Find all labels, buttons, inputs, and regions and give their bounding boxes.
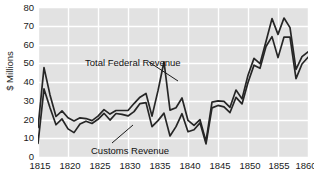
x-tick-1825: 1825 (89, 161, 110, 171)
x-tick-1850: 1850 (239, 161, 260, 171)
x-tick-1860: 1860 (295, 161, 314, 171)
y-tick-70: 70 (0, 21, 34, 31)
x-tick-1845: 1845 (209, 161, 230, 171)
series-lines (38, 7, 308, 157)
x-tick-1840: 1840 (179, 161, 200, 171)
series-customs-revenue (38, 37, 308, 144)
x-tick-1830: 1830 (119, 161, 140, 171)
y-tick-20: 20 (0, 115, 34, 125)
annotation-customs-revenue: Customs Revenue (91, 146, 169, 156)
annotation-total-federal-revenue: Total Federal Revenue (85, 58, 181, 68)
plot-area: Total Federal Revenue Customs Revenue (38, 7, 308, 157)
x-tick-1820: 1820 (59, 161, 80, 171)
y-axis-title: $ Millions (5, 40, 15, 102)
revenue-line-chart: 80 70 60 50 40 30 20 10 0 $ Millions Tot… (0, 0, 314, 182)
x-tick-1835: 1835 (149, 161, 170, 171)
y-tick-80: 80 (0, 3, 34, 13)
y-tick-10: 10 (0, 133, 34, 143)
x-tick-1855: 1855 (268, 161, 289, 171)
series-total-federal-revenue (38, 18, 308, 141)
x-tick-1815: 1815 (29, 161, 50, 171)
